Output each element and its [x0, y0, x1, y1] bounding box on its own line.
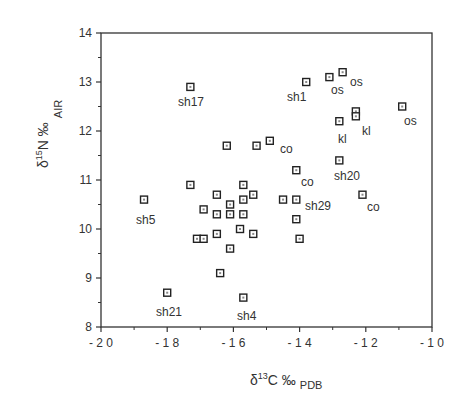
- point-label: sh4: [237, 309, 257, 323]
- x-tick-label: - 1 0: [420, 336, 444, 350]
- y-tick-label: 12: [79, 124, 93, 138]
- x-tick-label: - 1 6: [221, 336, 245, 350]
- point-label: os: [331, 83, 344, 97]
- y-tick-label: 9: [85, 271, 92, 285]
- point-label: os: [350, 75, 363, 89]
- y-tick-label: 13: [79, 75, 93, 89]
- point-label: kl: [362, 124, 371, 138]
- point-label: sh5: [136, 213, 156, 227]
- point-labels: sh17cosh1ososklkloscosh20sh29cosh5sh21sh…: [136, 75, 417, 323]
- svg-text:δ15N ‰AIR: δ15N ‰AIR: [34, 100, 64, 168]
- y-tick-label: 14: [79, 26, 93, 40]
- x-tick-label: - 1 8: [155, 336, 179, 350]
- point-label: sh17: [178, 95, 204, 109]
- x-tick-label: - 2 0: [89, 336, 113, 350]
- point-label: co: [367, 200, 380, 214]
- y-tick-label: 8: [85, 320, 92, 334]
- point-label: co: [280, 142, 293, 156]
- x-axis-title: δ13C ‰PDB: [250, 371, 322, 391]
- point-label: os: [404, 114, 417, 128]
- y-tick-label: 10: [79, 222, 93, 236]
- svg-text:δ13C ‰PDB: δ13C ‰PDB: [250, 371, 322, 391]
- x-tick-label: - 1 4: [288, 336, 312, 350]
- scatter-chart: - 2 0- 1 8- 1 6- 1 4- 1 2- 1 0 891011121…: [0, 0, 464, 410]
- y-tick-label: 11: [80, 173, 93, 187]
- point-label: kl: [338, 132, 347, 146]
- x-axis-ticks: - 2 0- 1 8- 1 6- 1 4- 1 2- 1 0: [89, 327, 444, 350]
- point-label: sh20: [334, 169, 360, 183]
- point-label: sh1: [287, 90, 307, 104]
- point-label: sh21: [156, 305, 182, 319]
- x-tick-label: - 1 2: [354, 336, 378, 350]
- y-axis-title: δ15N ‰AIR: [34, 100, 64, 168]
- point-label: co: [301, 175, 314, 189]
- plot-frame: [101, 33, 432, 327]
- point-label: sh29: [305, 199, 331, 213]
- y-axis-ticks: 891011121314: [79, 26, 101, 334]
